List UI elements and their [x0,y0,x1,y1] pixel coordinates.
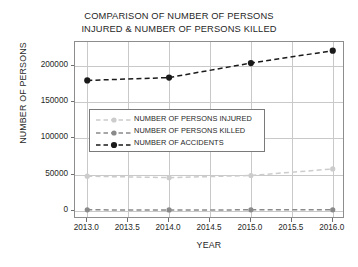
x-tick-label-1: 2013.5 [105,223,149,232]
y-tick-label-4: 200000 [8,60,68,69]
y-tick-2 [71,137,75,138]
y-tick-1 [71,174,75,175]
x-axis-label: YEAR [74,240,344,250]
series-0 [85,166,336,180]
y-tick-label-3: 150000 [8,96,68,105]
x-tick-0 [86,218,87,222]
x-tick-1 [127,218,128,222]
legend-label-0: NUMBER OF PERSONS INJURED [134,114,252,123]
y-tick-label-0: 0 [8,205,68,214]
chart-figure: COMPARISON OF NUMBER OF PERSONS INJURED … [0,0,358,267]
data-point-1-3 [330,207,335,212]
y-tick-3 [71,101,75,102]
legend-label-2: NUMBER OF ACCIDENTS [134,138,224,147]
data-point-0-2 [248,173,253,178]
legend-item-0[interactable]: NUMBER OF PERSONS INJURED [94,112,260,124]
legend-marker-icon-2 [94,137,134,149]
y-tick-4 [71,65,75,66]
y-tick-label-2: 100000 [8,132,68,141]
x-tick-3 [209,218,210,222]
data-point-2-3 [330,48,336,54]
x-tick-label-4: 2015.0 [228,223,272,232]
series-line-0 [87,169,332,178]
series-line-2 [87,51,332,81]
x-tick-5 [291,218,292,222]
x-tick-label-6: 2016.0 [310,223,354,232]
chart-title-line-2: INJURED & NUMBER OF PERSONS KILLED [0,23,358,36]
x-tick-label-5: 2015.5 [269,223,313,232]
data-point-1-0 [85,207,90,212]
x-tick-label-2: 2014.0 [146,223,190,232]
legend-item-2[interactable]: NUMBER OF ACCIDENTS [94,137,260,149]
data-point-2-2 [248,60,254,66]
x-tick-6 [332,218,333,222]
data-point-1-2 [248,207,253,212]
x-tick-2 [168,218,169,222]
legend-marker-icon-1 [94,125,134,137]
x-tick-label-3: 2014.5 [187,223,231,232]
legend-marker-icon-0 [94,112,134,124]
chart-legend: NUMBER OF PERSONS INJUREDNUMBER OF PERSO… [89,109,265,152]
chart-title: COMPARISON OF NUMBER OF PERSONS INJURED … [0,10,358,35]
data-point-0-0 [85,174,90,179]
y-axis-label: NUMBER OF PERSONS [18,18,28,168]
data-point-1-1 [166,207,171,212]
x-tick-4 [250,218,251,222]
y-tick-0 [71,210,75,211]
data-point-2-0 [84,77,90,83]
y-tick-label-1: 50000 [8,169,68,178]
x-tick-label-0: 2013.0 [64,223,108,232]
data-point-0-3 [330,166,335,171]
series-2 [84,48,336,84]
data-point-0-1 [166,175,171,180]
data-point-2-1 [166,74,172,80]
legend-item-1[interactable]: NUMBER OF PERSONS KILLED [94,124,260,136]
chart-title-line-1: COMPARISON OF NUMBER OF PERSONS [0,10,358,23]
series-1 [85,207,336,212]
legend-label-1: NUMBER OF PERSONS KILLED [134,126,245,135]
